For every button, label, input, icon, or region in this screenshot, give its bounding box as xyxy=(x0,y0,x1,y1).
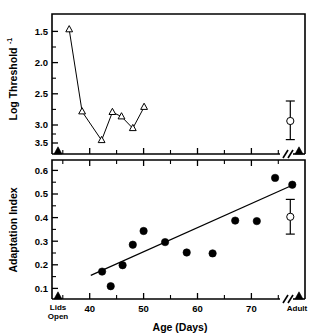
xtick-label-2: 60 xyxy=(192,303,203,314)
top-ytick-label-2: 2.5 xyxy=(35,88,49,99)
top-panel-adult-marker xyxy=(295,147,303,154)
top-panel-frame xyxy=(52,14,305,154)
top-panel-adult-mean-marker xyxy=(287,117,294,124)
bottom-panel-lids-open-marker xyxy=(54,292,62,299)
bottom-ytick-label-0: 0.1 xyxy=(35,283,49,294)
bottom-panel-markers xyxy=(98,174,296,290)
bottom-panel-x-ticks-top xyxy=(63,160,278,166)
xtick-label-3: 70 xyxy=(246,303,257,314)
x-axis-title: Age (Days) xyxy=(153,321,208,333)
xlabel-adult: Adult xyxy=(287,304,308,313)
xtick-label-0: 40 xyxy=(84,303,95,314)
bottom-panel-axis-break-2 xyxy=(288,295,293,303)
top-panel-y-ticks xyxy=(52,31,58,143)
bottom-panel-adult-mean-marker xyxy=(287,213,294,220)
top-panel-axis-break-2 xyxy=(288,150,293,158)
top-panel-axis-break-1 xyxy=(283,150,288,158)
top-panel-x-ticks xyxy=(63,148,278,154)
top-panel-ylabel-group: Log Threshold -1 xyxy=(6,38,19,121)
bottom-ytick-label-3: 0.4 xyxy=(35,212,49,223)
xlabel-lids-open-line2: Open xyxy=(48,312,69,321)
top-ytick-label-3: 3.0 xyxy=(35,119,48,130)
figure-container: 1.5 2.0 2.5 3.0 3.5 xyxy=(0,0,323,336)
top-ytick-label-0: 1.5 xyxy=(35,26,49,37)
bottom-panel: 0.1 0.2 0.3 0.4 0.5 0.6 xyxy=(7,160,305,303)
bottom-panel-adult-marker xyxy=(295,292,303,299)
top-panel: 1.5 2.0 2.5 3.0 3.5 xyxy=(6,14,305,158)
top-panel-ylabel-superscript: -1 xyxy=(6,38,13,44)
xtick-label-1: 50 xyxy=(138,303,149,314)
bottom-panel-axis-break-1 xyxy=(283,295,288,303)
top-panel-ylabel: Log Threshold xyxy=(7,48,19,121)
bottom-panel-y-ticks xyxy=(52,170,58,288)
bottom-panel-x-ticks xyxy=(63,293,278,299)
figure-svg: 1.5 2.0 2.5 3.0 3.5 xyxy=(0,0,323,336)
bottom-panel-ylabel: Adaptation Index xyxy=(7,187,19,272)
x-axis-labels: 40 50 60 70 Lids Open Adult Age (Days) xyxy=(48,303,308,333)
bottom-ytick-label-5: 0.6 xyxy=(35,165,48,176)
bottom-ytick-label-2: 0.3 xyxy=(35,236,48,247)
bottom-panel-frame xyxy=(52,160,305,299)
bottom-panel-ylabel-group: Adaptation Index xyxy=(7,187,19,272)
bottom-ytick-label-4: 0.5 xyxy=(35,188,49,199)
bottom-ytick-label-1: 0.2 xyxy=(35,259,48,270)
top-ytick-label-1: 2.0 xyxy=(35,57,48,68)
top-ytick-label-4: 3.5 xyxy=(35,137,49,148)
top-panel-lids-open-marker xyxy=(54,147,62,154)
